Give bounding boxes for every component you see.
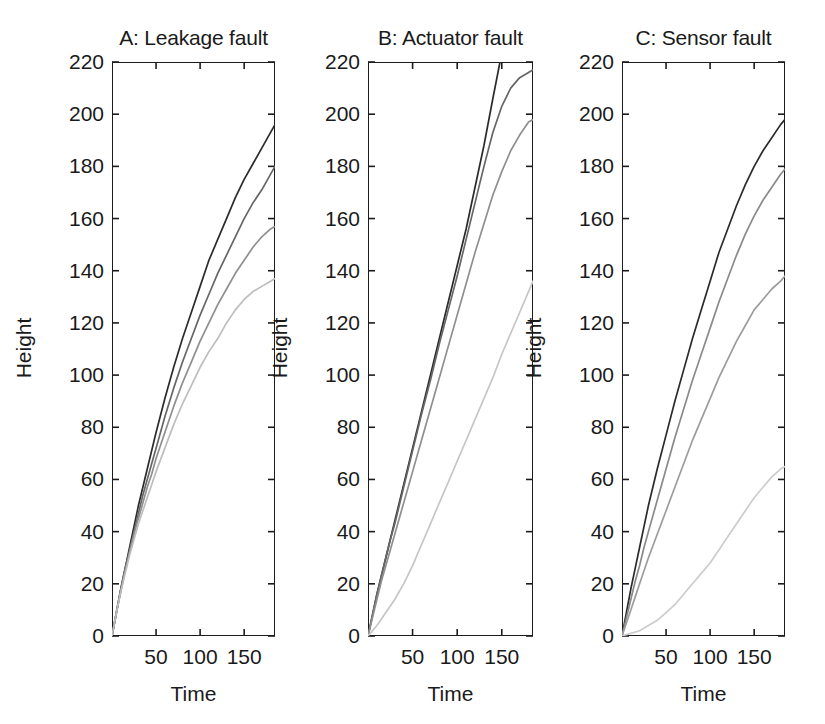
series-line-3 [622,276,785,636]
y-tick-label: 0 [534,624,614,648]
x-tick-label: 50 [654,645,677,669]
plot-overlay [622,62,785,636]
series-line-4 [622,466,785,636]
chart-panel-c: C: Sensor fault0204060801001201401601802… [0,0,825,724]
y-tick-label: 200 [534,102,614,126]
y-axis-label: Height [522,288,546,408]
plot-graphics [622,62,785,636]
y-tick-label: 60 [534,467,614,491]
y-tick-label: 220 [534,50,614,74]
x-axis-label: Time [681,682,727,706]
y-tick-label: 80 [534,415,614,439]
x-tick-label: 100 [693,645,728,669]
y-tick-label: 160 [534,207,614,231]
y-tick-label: 180 [534,154,614,178]
y-tick-label: 100 [534,363,614,387]
y-tick-label: 140 [534,259,614,283]
panel-title: C: Sensor fault [562,26,825,50]
figure-canvas: A: Leakage fault020406080100120140160180… [0,0,825,724]
y-tick-label: 20 [534,572,614,596]
y-tick-label: 120 [534,311,614,335]
series-line-1 [622,119,785,636]
y-tick-label: 40 [534,520,614,544]
series-group [622,119,785,636]
x-tick-label: 150 [737,645,772,669]
